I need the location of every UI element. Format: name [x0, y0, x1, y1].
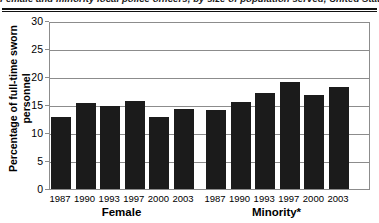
x-tick-label: 2000	[300, 193, 326, 204]
bar	[76, 103, 96, 189]
x-tick-label: 2003	[325, 193, 351, 204]
group-label-minority: Minority*	[205, 206, 348, 218]
x-tick-label: 2000	[145, 193, 171, 204]
bar	[100, 106, 120, 189]
y-tick-label-0: 0	[21, 183, 43, 195]
x-tick-label: 1987	[202, 193, 228, 204]
bar	[149, 117, 169, 189]
x-tick-label: 1997	[276, 193, 302, 204]
bar	[329, 87, 349, 189]
bar	[206, 110, 226, 189]
y-tick-label-10: 10	[21, 127, 43, 139]
chart-figure: Female and minority local police officer…	[0, 0, 379, 223]
title-divider-thin	[2, 11, 377, 12]
group-label-female: Female	[50, 206, 193, 218]
gridline-30	[50, 22, 369, 23]
gridline-25	[50, 50, 369, 51]
gridline-20	[50, 78, 369, 79]
x-tick-label: 1993	[251, 193, 277, 204]
x-tick-label: 1990	[72, 193, 98, 204]
plot-area	[49, 22, 370, 190]
y-tick-label-30: 30	[21, 15, 43, 27]
y-tick-label-15: 15	[21, 99, 43, 111]
x-tick-label: 1990	[227, 193, 253, 204]
x-tick-label: 1993	[96, 193, 122, 204]
bar	[255, 93, 275, 189]
bar	[174, 109, 194, 189]
y-tick-label-5: 5	[21, 155, 43, 167]
x-tick-label: 1987	[47, 193, 73, 204]
y-tick-label-20: 20	[21, 71, 43, 83]
chart-title: Female and minority local police officer…	[0, 0, 379, 4]
bar	[231, 102, 251, 189]
y-tick-label-25: 25	[21, 43, 43, 55]
chart-title-strip: Female and minority local police officer…	[0, 0, 379, 8]
x-tick-label: 1997	[121, 193, 147, 204]
bar	[51, 117, 71, 189]
bar	[125, 101, 145, 189]
bar	[280, 82, 300, 189]
title-divider-thick	[2, 8, 377, 10]
x-tick-label: 2003	[170, 193, 196, 204]
bar	[304, 95, 324, 189]
